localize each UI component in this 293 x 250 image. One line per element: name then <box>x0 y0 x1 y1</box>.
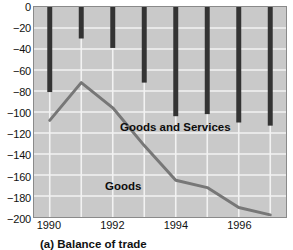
line-series-goods <box>34 7 286 217</box>
y-axis-tick-label: −60 <box>13 65 31 77</box>
y-axis-tick-label: −20 <box>13 22 31 34</box>
y-axis-tick-label: −160 <box>7 171 31 183</box>
x-axis-tick-label: 1996 <box>227 219 251 231</box>
y-axis-tick-label: −40 <box>13 43 31 55</box>
y-axis-tick-label: −80 <box>13 86 31 98</box>
y-axis-tick-label: 0 <box>25 1 31 13</box>
y-axis-tick-label: −120 <box>7 128 31 140</box>
line-path <box>50 83 271 215</box>
series-label-goods: Goods <box>105 180 141 192</box>
y-axis-tick-label: −140 <box>7 149 31 161</box>
series-label-goods-and-services: Goods and Services <box>120 121 231 133</box>
x-axis-tick-label: 1994 <box>164 219 188 231</box>
plot-area <box>33 6 287 218</box>
y-axis-tick-label: −180 <box>7 192 31 204</box>
y-axis: 0−20−40−60−80−100−120−140−160−180−200 <box>0 6 31 218</box>
x-axis-tick-label: 1992 <box>100 219 124 231</box>
y-axis-tick-label: −200 <box>7 213 31 225</box>
figure-caption: (a) Balance of trade <box>40 238 147 250</box>
x-axis-tick-label: 1990 <box>37 219 61 231</box>
y-axis-tick-label: −100 <box>7 107 31 119</box>
plot-inner <box>34 7 286 217</box>
x-axis: 1990199219941996 <box>33 219 287 235</box>
